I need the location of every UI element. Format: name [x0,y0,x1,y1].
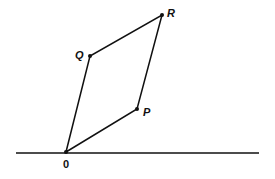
diagram: Q R P 0 [0,0,275,179]
point-r [160,13,164,17]
label-origin: 0 [63,159,69,170]
label-q: Q [75,50,84,61]
point-q [88,54,92,58]
point-p [135,107,139,111]
parallelogram-figure [0,0,275,179]
parallelogram [66,15,162,152]
label-p: P [143,107,150,118]
point-o [64,150,68,154]
label-r: R [167,8,175,19]
